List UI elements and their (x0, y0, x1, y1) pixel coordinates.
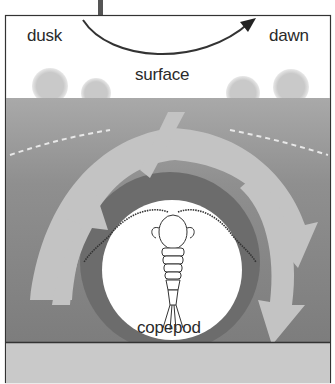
bottom-strip (6, 343, 330, 383)
label-copepod: copepod (137, 318, 201, 338)
stem-line (98, 0, 103, 16)
label-dawn: dawn (269, 26, 309, 46)
label-surface: surface (135, 65, 189, 85)
label-dusk: dusk (27, 26, 62, 46)
